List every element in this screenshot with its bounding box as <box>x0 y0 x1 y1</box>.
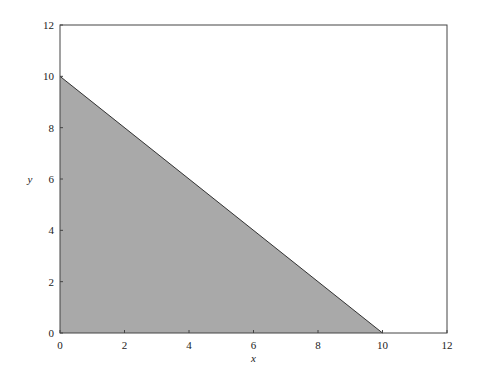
y-tick-label: 12 <box>43 19 54 31</box>
x-tick-label: 6 <box>251 339 257 351</box>
x-tick-label: 10 <box>377 339 389 351</box>
plot-area <box>60 76 383 333</box>
y-tick-label: 6 <box>49 173 55 185</box>
x-tick-label: 8 <box>315 339 321 351</box>
x-tick-label: 4 <box>186 339 192 351</box>
y-axis-label: y <box>27 173 33 185</box>
x-tick-label: 0 <box>57 339 63 351</box>
y-tick-label: 0 <box>49 327 55 339</box>
y-tick-label: 10 <box>43 70 55 82</box>
y-tick-label: 4 <box>49 224 55 236</box>
y-tick-label: 2 <box>49 276 55 288</box>
chart: 024681012 024681012 x y <box>0 0 478 384</box>
y-tick-label: 8 <box>49 122 55 134</box>
x-axis-label: x <box>250 352 256 364</box>
x-tick-label: 12 <box>442 339 453 351</box>
x-tick-label: 2 <box>122 339 128 351</box>
